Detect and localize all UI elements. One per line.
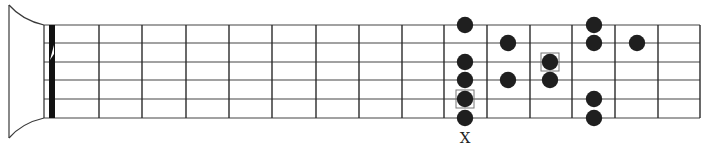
- note-dot: [542, 72, 558, 88]
- note-dot: [457, 54, 473, 70]
- nut: [44, 25, 55, 118]
- headstock-bottom-curve: [9, 118, 44, 138]
- note-dot: [500, 35, 516, 51]
- note-dot: [457, 72, 473, 88]
- fretboard-diagram: X: [0, 0, 708, 155]
- note-dot: [586, 110, 602, 126]
- note-dot: [457, 17, 473, 33]
- root-note-dot: [542, 54, 558, 70]
- note-dot: [629, 35, 645, 51]
- headstock: [9, 5, 44, 138]
- note-dot: [586, 35, 602, 51]
- note-dot: [500, 72, 516, 88]
- headstock-top-curve: [9, 5, 44, 25]
- nut-bar: [49, 25, 55, 118]
- note-dot: [457, 110, 473, 126]
- scale-notes: [456, 17, 645, 126]
- note-dot: [586, 17, 602, 33]
- note-dot: [586, 91, 602, 107]
- frets: [99, 25, 700, 118]
- root-note-dot: [457, 91, 473, 107]
- muted-string-marker: X: [460, 129, 471, 147]
